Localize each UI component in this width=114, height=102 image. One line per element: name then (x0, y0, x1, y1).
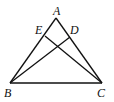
label-c: C (97, 86, 106, 100)
label-d: D (69, 23, 79, 37)
segment-ab (10, 18, 56, 83)
label-a: A (52, 4, 61, 18)
label-e: E (34, 23, 43, 37)
triangle-diagram: A E D B C (0, 0, 114, 102)
segment-bd (10, 37, 70, 83)
label-b: B (4, 86, 12, 100)
